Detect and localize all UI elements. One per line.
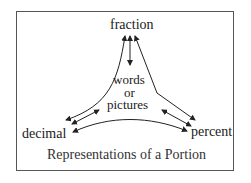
- node-fraction: fraction: [110, 18, 154, 32]
- arrow-percent-words: [162, 110, 191, 126]
- node-pictures: pictures: [107, 98, 148, 111]
- arrow-decimal-words: [72, 110, 99, 124]
- node-decimal: decimal: [22, 127, 66, 141]
- node-percent: percent: [191, 125, 232, 139]
- arrow-decimal-percent: [73, 120, 187, 133]
- diagram-caption: Representations of a Portion: [47, 148, 206, 162]
